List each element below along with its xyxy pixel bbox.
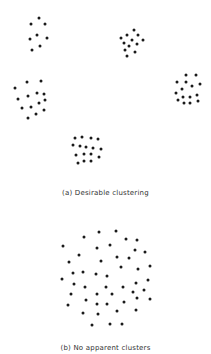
data-point: [29, 38, 32, 41]
data-point: [96, 247, 99, 250]
data-point: [195, 74, 198, 77]
data-point: [132, 291, 135, 294]
data-point: [100, 148, 103, 151]
data-point: [43, 93, 46, 96]
data-point: [38, 102, 41, 105]
data-point: [35, 113, 38, 116]
data-point: [96, 303, 99, 306]
data-point: [39, 45, 42, 48]
data-point: [149, 298, 152, 301]
data-point: [68, 261, 71, 264]
data-point: [106, 275, 109, 278]
data-point: [30, 106, 33, 109]
data-point: [98, 156, 101, 159]
data-point: [85, 146, 88, 149]
data-point: [73, 283, 76, 286]
caption-a: (a) Desirable clustering: [0, 189, 211, 197]
data-point: [85, 299, 88, 302]
data-point: [106, 303, 109, 306]
data-point: [21, 107, 24, 110]
data-point: [90, 160, 93, 163]
data-point: [36, 34, 39, 37]
data-point: [128, 257, 131, 260]
data-point: [136, 297, 139, 300]
data-point: [74, 137, 77, 140]
data-point: [126, 55, 129, 58]
data-point: [98, 231, 101, 234]
data-point: [137, 268, 140, 271]
data-point: [136, 43, 139, 46]
data-point: [125, 238, 128, 241]
data-point: [95, 273, 98, 276]
data-point: [90, 153, 93, 156]
data-point: [27, 95, 30, 98]
data-point: [83, 160, 86, 163]
data-point: [199, 83, 202, 86]
data-point: [133, 29, 136, 32]
data-point: [67, 304, 70, 307]
data-point: [143, 289, 146, 292]
data-point: [122, 286, 125, 289]
data-point: [175, 92, 178, 95]
data-point: [189, 96, 192, 99]
data-point: [27, 117, 30, 120]
data-point: [121, 323, 124, 326]
data-point: [197, 100, 200, 103]
data-point: [189, 102, 192, 105]
data-point: [136, 239, 139, 242]
data-point: [97, 138, 100, 141]
data-point: [26, 81, 29, 84]
data-point: [81, 136, 84, 139]
data-point: [82, 312, 85, 315]
data-point: [36, 92, 39, 95]
data-point: [83, 236, 86, 239]
data-point: [79, 145, 82, 148]
clustering-figure: (a) Desirable clustering (b) No apparent…: [0, 0, 211, 354]
data-point: [105, 286, 108, 289]
data-point: [134, 249, 137, 252]
data-point: [17, 98, 20, 101]
data-point: [111, 293, 114, 296]
data-point: [70, 293, 73, 296]
data-point: [46, 37, 49, 40]
data-point: [90, 137, 93, 140]
data-point: [72, 144, 75, 147]
data-point: [134, 51, 137, 54]
data-point: [83, 153, 86, 156]
data-point: [92, 147, 95, 150]
data-point: [75, 154, 78, 157]
data-point: [128, 45, 131, 48]
data-point: [91, 324, 94, 327]
caption-b: (b) No apparent clusters: [0, 344, 211, 352]
data-point: [196, 94, 199, 97]
data-point: [131, 39, 134, 42]
data-point: [137, 34, 140, 37]
data-point: [77, 162, 80, 165]
data-point: [109, 244, 112, 247]
data-point: [181, 88, 184, 91]
data-point: [185, 81, 188, 84]
data-point: [30, 23, 33, 26]
data-point: [44, 23, 47, 26]
data-point: [135, 309, 138, 312]
data-point: [84, 286, 87, 289]
data-point: [62, 245, 65, 248]
data-point: [96, 293, 99, 296]
data-point: [115, 230, 118, 233]
data-point: [149, 265, 152, 268]
data-point: [109, 323, 112, 326]
data-point: [78, 254, 81, 257]
data-point: [97, 313, 100, 316]
data-point: [147, 279, 150, 282]
data-point: [38, 17, 41, 20]
data-point: [123, 301, 126, 304]
data-point: [126, 34, 129, 37]
data-point: [124, 49, 127, 52]
data-point: [61, 278, 64, 281]
data-point: [185, 74, 188, 77]
data-point: [120, 37, 123, 40]
data-point: [116, 310, 119, 313]
data-point: [123, 42, 126, 45]
data-point: [100, 260, 103, 263]
data-point: [144, 251, 147, 254]
